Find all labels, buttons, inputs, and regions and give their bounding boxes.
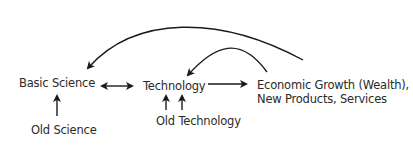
node-economic-growth-line1: Economic Growth (Wealth),: [257, 78, 409, 92]
node-technology: Technology: [143, 79, 205, 93]
feedback-arrow-to-technology: [188, 48, 267, 75]
node-old-technology: Old Technology: [156, 114, 241, 128]
node-old-science: Old Science: [31, 123, 97, 137]
feedback-arrow-to-basic-science: [88, 27, 303, 68]
node-basic-science: Basic Science: [19, 76, 95, 90]
node-economic-growth-line2: New Products, Services: [257, 92, 387, 106]
